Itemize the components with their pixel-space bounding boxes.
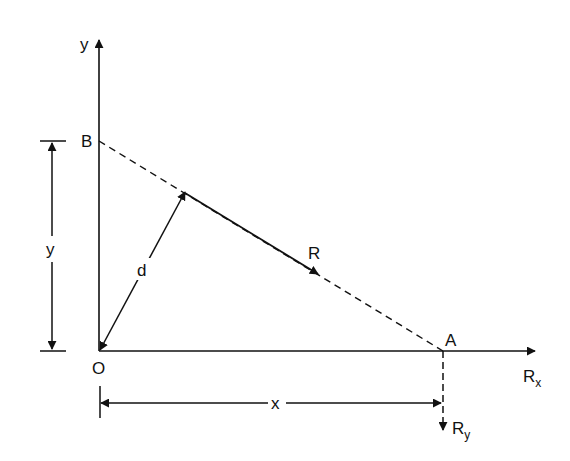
rx-label: Rx	[523, 367, 541, 390]
point-b-label: B	[81, 132, 92, 151]
point-o-label: O	[92, 359, 105, 378]
x-dimension-label: x	[271, 394, 280, 413]
point-a-label: A	[445, 331, 457, 350]
ry-label: Ry	[452, 419, 470, 442]
y-dimension-label: y	[46, 240, 55, 259]
diagram-canvas: y Rx R d B O A y x Ry	[0, 0, 570, 461]
y-axis-label: y	[80, 35, 89, 54]
resultant-r-vector	[185, 193, 318, 274]
d-label: d	[137, 261, 146, 280]
r-label: R	[308, 244, 320, 263]
